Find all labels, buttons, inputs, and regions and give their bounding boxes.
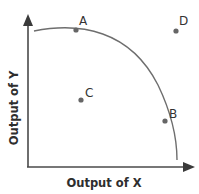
- point-d: D: [173, 14, 188, 34]
- point-c-marker: [78, 97, 83, 102]
- ppf-diagram-canvas: A B C D Output of X Output of Y: [0, 0, 199, 194]
- point-b: B: [162, 107, 177, 124]
- point-d-label: D: [179, 14, 188, 28]
- point-b-label: B: [169, 107, 177, 121]
- ppf-curve: [34, 28, 177, 160]
- y-axis-arrow-icon: [23, 14, 33, 26]
- x-axis-arrow-icon: [183, 162, 195, 172]
- point-c-label: C: [85, 86, 93, 100]
- point-a-marker: [73, 27, 78, 32]
- point-c: C: [78, 86, 93, 103]
- point-a-label: A: [79, 14, 88, 28]
- point-b-marker: [162, 118, 167, 123]
- y-axis-label: Output of Y: [7, 70, 21, 145]
- x-axis-label: Output of X: [66, 176, 141, 190]
- ppf-diagram: A B C D Output of X Output of Y: [0, 0, 199, 194]
- point-d-marker: [173, 28, 178, 33]
